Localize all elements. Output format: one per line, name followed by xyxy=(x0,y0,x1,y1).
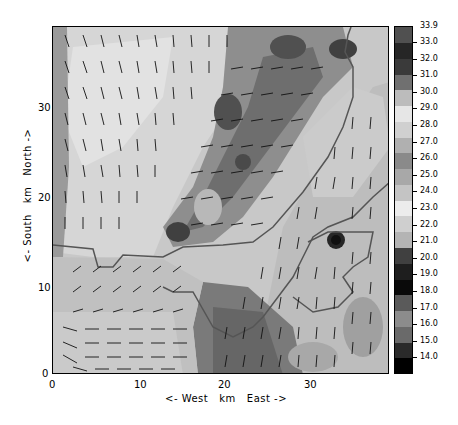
colorbar-segment xyxy=(395,43,412,59)
colorbar-segment xyxy=(395,138,412,154)
colorbar-segment xyxy=(395,75,412,91)
colorbar-segment xyxy=(395,232,412,248)
x-axis-title: <- West km East -> xyxy=(165,393,287,404)
colorbar-tick xyxy=(412,191,417,192)
colorbar-segment xyxy=(395,90,412,106)
colorbar-segment xyxy=(395,280,412,296)
colorbar-segment xyxy=(395,27,412,43)
colorbar-label: 21.0 xyxy=(420,237,438,245)
x-tick-30: 30 xyxy=(304,380,317,390)
contour-plot-area xyxy=(52,26,389,374)
x-tick-10: 10 xyxy=(134,380,147,390)
colorbar-segment xyxy=(395,264,412,280)
colorbar-tick xyxy=(412,274,417,275)
colorbar-tick xyxy=(412,75,417,76)
colorbar-label: 18.0 xyxy=(420,287,438,295)
colorbar-segment xyxy=(395,248,412,264)
colorbar-label: 29.0 xyxy=(420,104,438,112)
colorbar-tick xyxy=(412,208,417,209)
colorbar-segment xyxy=(395,201,412,217)
colorbar-tick xyxy=(412,241,417,242)
colorbar-tick xyxy=(412,59,417,60)
y-tick-30: 30 xyxy=(38,103,51,113)
colorbar-tick xyxy=(412,324,417,325)
colorbar-label: 20.0 xyxy=(420,254,438,262)
colorbar-label: 14.0 xyxy=(420,353,438,361)
colorbar-label: 28.0 xyxy=(420,121,438,129)
y-tick-20: 20 xyxy=(38,193,51,203)
colorbar-label: 17.0 xyxy=(420,304,438,312)
contour-map xyxy=(53,27,389,374)
colorbar xyxy=(394,26,413,374)
colorbar-tick xyxy=(412,258,417,259)
colorbar-segment xyxy=(395,59,412,75)
colorbar-label: 31.0 xyxy=(420,71,438,79)
colorbar-segment xyxy=(395,169,412,185)
colorbar-segment xyxy=(395,185,412,201)
colorbar-label: 15.0 xyxy=(420,337,438,345)
y-tick-10: 10 xyxy=(38,283,51,293)
colorbar-label: 30.0 xyxy=(420,88,438,96)
colorbar-label: 22.0 xyxy=(420,221,438,229)
colorbar-segment xyxy=(395,295,412,311)
colorbar-label: 19.0 xyxy=(420,270,438,278)
colorbar-tick xyxy=(412,125,417,126)
x-tick-0: 0 xyxy=(49,380,55,390)
colorbar-tick xyxy=(412,291,417,292)
colorbar-tick xyxy=(412,341,417,342)
x-tick-20: 20 xyxy=(218,380,231,390)
colorbar-segment xyxy=(395,358,412,374)
colorbar-label: 26.0 xyxy=(420,154,438,162)
colorbar-label: 23.0 xyxy=(420,204,438,212)
colorbar-tick xyxy=(412,308,417,309)
colorbar-segment xyxy=(395,122,412,138)
colorbar-tick xyxy=(412,225,417,226)
colorbar-tick xyxy=(412,108,417,109)
colorbar-tick xyxy=(412,175,417,176)
colorbar-segment xyxy=(395,216,412,232)
colorbar-label: 33.0 xyxy=(420,38,438,46)
colorbar-segment xyxy=(395,106,412,122)
colorbar-segment xyxy=(395,311,412,327)
colorbar-label: 27.0 xyxy=(420,138,438,146)
y-tick-0: 0 xyxy=(42,369,48,379)
colorbar-tick xyxy=(412,158,417,159)
colorbar-label: 16.0 xyxy=(420,320,438,328)
colorbar-label: 32.0 xyxy=(420,55,438,63)
colorbar-tick xyxy=(412,142,417,143)
colorbar-tick xyxy=(412,357,417,358)
colorbar-label: 25.0 xyxy=(420,171,438,179)
colorbar-segment xyxy=(395,343,412,359)
colorbar-label: 33.9 xyxy=(420,22,438,30)
colorbar-segment xyxy=(395,153,412,169)
colorbar-segment xyxy=(395,327,412,343)
colorbar-tick xyxy=(412,92,417,93)
y-axis-title: <- South km North -> xyxy=(22,126,33,266)
colorbar-tick xyxy=(412,42,417,43)
colorbar-label: 24.0 xyxy=(420,187,438,195)
